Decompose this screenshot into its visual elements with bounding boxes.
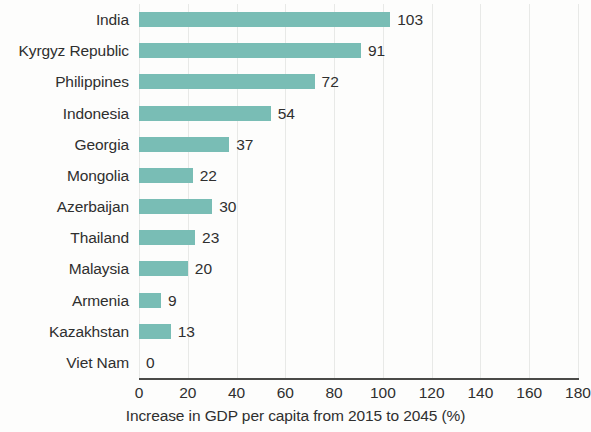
category-label: Kazakhstan: [49, 316, 129, 347]
category-label: Malaysia: [69, 253, 129, 284]
x-axis-title: Increase in GDP per capita from 2015 to …: [0, 407, 591, 425]
category-label: Armenia: [72, 285, 129, 316]
x-tick-label: 140: [468, 384, 494, 402]
bar-value-label: 13: [178, 316, 195, 347]
bar-row: Viet Nam0: [139, 347, 578, 378]
x-tick-label: 80: [325, 384, 342, 402]
bar-value-label: 22: [200, 160, 217, 191]
bar-value-label: 0: [146, 347, 155, 378]
bar: [139, 324, 171, 339]
bar-value-label: 23: [202, 222, 219, 253]
bar-row: Thailand23: [139, 222, 578, 253]
x-tick-label: 0: [135, 384, 144, 402]
bar: [139, 43, 361, 58]
x-tick-label: 40: [228, 384, 245, 402]
bar-row: Kazakhstan13: [139, 316, 578, 347]
x-tick-label: 180: [565, 384, 591, 402]
plot-area: India103Kyrgyz Republic91Philippines72In…: [139, 4, 578, 378]
bar-value-label: 72: [322, 66, 339, 97]
bar-value-label: 9: [168, 285, 177, 316]
bar-row: India103: [139, 4, 578, 35]
bar-row: Georgia37: [139, 129, 578, 160]
category-label: Indonesia: [63, 98, 129, 129]
x-tick-label: 60: [277, 384, 294, 402]
category-label: Georgia: [75, 129, 129, 160]
gridline: [578, 4, 579, 378]
bar-row: Indonesia54: [139, 98, 578, 129]
bar: [139, 106, 271, 121]
bar: [139, 199, 212, 214]
bar-row: Philippines72: [139, 66, 578, 97]
bar-row: Azerbaijan30: [139, 191, 578, 222]
bar-value-label: 37: [236, 129, 253, 160]
bar-value-label: 20: [195, 253, 212, 284]
bar: [139, 261, 188, 276]
bar-chart: India103Kyrgyz Republic91Philippines72In…: [0, 0, 591, 432]
category-label: India: [96, 4, 129, 35]
category-label: Viet Nam: [66, 347, 129, 378]
bar-row: Mongolia22: [139, 160, 578, 191]
x-tick-label: 120: [419, 384, 445, 402]
bar-value-label: 103: [397, 4, 423, 35]
category-label: Kyrgyz Republic: [19, 35, 130, 66]
category-label: Thailand: [70, 222, 129, 253]
bar-row: Kyrgyz Republic91: [139, 35, 578, 66]
category-label: Azerbaijan: [57, 191, 129, 222]
bar-value-label: 91: [368, 35, 385, 66]
x-axis-line: [139, 378, 579, 380]
bar: [139, 168, 193, 183]
bar-row: Malaysia20: [139, 253, 578, 284]
bar: [139, 137, 229, 152]
bar-value-label: 54: [278, 98, 295, 129]
bar: [139, 74, 315, 89]
bar-row: Armenia9: [139, 285, 578, 316]
x-tick-label: 160: [516, 384, 542, 402]
x-tick-label: 20: [179, 384, 196, 402]
x-tick-label: 100: [370, 384, 396, 402]
bar: [139, 230, 195, 245]
bar-value-label: 30: [219, 191, 236, 222]
bar: [139, 293, 161, 308]
bar: [139, 12, 390, 27]
category-label: Philippines: [55, 66, 129, 97]
category-label: Mongolia: [67, 160, 129, 191]
